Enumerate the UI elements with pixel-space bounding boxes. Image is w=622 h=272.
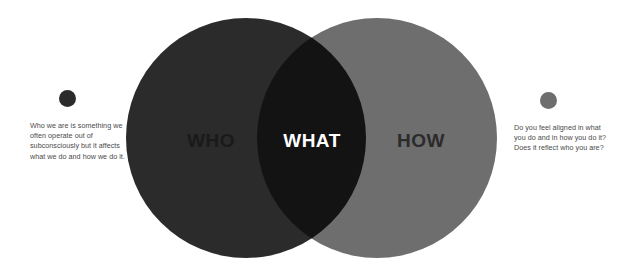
venn-label-who: WHO <box>187 131 235 150</box>
annotation-dot-how-icon <box>540 92 557 109</box>
venn-label-how: HOW <box>397 131 445 150</box>
annotation-who: Who we are is something we often operate… <box>30 90 128 162</box>
annotation-dot-who-icon <box>59 90 76 107</box>
annotation-how: Do you feel aligned in what you do and i… <box>514 92 612 154</box>
annotation-text-how: Do you feel aligned in what you do and i… <box>514 123 612 154</box>
venn-label-what: WHAT <box>283 131 341 150</box>
venn-diagram: WHO WHAT HOW Who we are is something we … <box>0 0 622 272</box>
annotation-text-who: Who we are is something we often operate… <box>30 121 128 162</box>
